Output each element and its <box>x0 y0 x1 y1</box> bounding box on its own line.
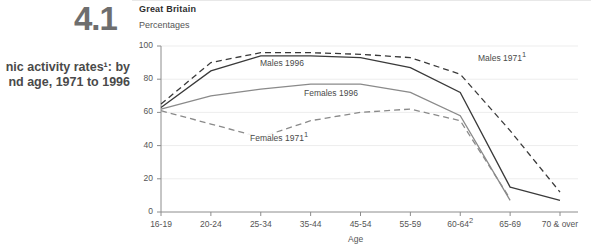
series-line-0 <box>161 53 560 192</box>
series-label-0: Males 1996 <box>258 58 306 68</box>
x-axis-title: Age <box>348 234 363 244</box>
series-label-1: Females 1996 <box>302 88 360 98</box>
figure-panel: 4.1 nic activity rates¹: by nd age, 1971… <box>0 0 591 247</box>
series-label-3: Males 19711 <box>476 53 528 63</box>
y-tick-label: 20 <box>131 173 153 183</box>
y-tick-label: 0 <box>131 206 153 216</box>
series-line-3 <box>161 109 510 199</box>
series-lines <box>161 53 560 201</box>
axes <box>157 46 560 216</box>
series-label-2: Females 19711 <box>248 133 310 143</box>
x-tick-label-8: 70 & over <box>530 219 590 229</box>
y-tick-label: 40 <box>131 140 153 150</box>
line-chart <box>0 0 591 247</box>
y-tick-label: 80 <box>131 73 153 83</box>
y-tick-label: 100 <box>131 40 153 50</box>
y-tick-label: 60 <box>131 106 153 116</box>
series-line-2 <box>161 84 510 200</box>
gridlines <box>161 46 578 212</box>
